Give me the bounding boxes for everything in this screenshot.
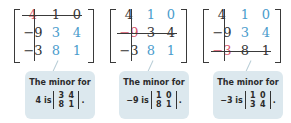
col-strike-line (131, 9, 132, 61)
panel-minor-4: 4 1 0 −9 3 4 −3 8 1 The minor for 4 is 3… (0, 0, 95, 123)
matrix-cell: 1 (141, 7, 161, 23)
callout-period: . (179, 96, 182, 105)
callout-pointer (148, 60, 154, 71)
row-strike-line (22, 15, 82, 16)
matrix-cell: 3 (46, 25, 66, 41)
det-entry: 1 (164, 100, 174, 109)
col-strike-line (224, 9, 225, 61)
matrix-cell: 4 (212, 7, 232, 23)
det-entry: 4 (66, 91, 76, 100)
right-bracket (88, 9, 94, 63)
callout-text: The minor for (213, 78, 283, 87)
callout-box: The minor for −3 is 1 0 3 4 . (213, 71, 283, 119)
det-entry: 0 (258, 91, 268, 100)
matrix-cell: 4 (67, 25, 87, 41)
col-strike-line (34, 9, 35, 61)
callout-box: The minor for −9 is 1 0 8 1 . (119, 71, 189, 119)
det-entry: 4 (258, 100, 268, 109)
minor-determinant: 1 0 3 4 (245, 91, 271, 109)
matrix-cell: 4 (119, 7, 139, 23)
matrix-cell: 1 (67, 43, 87, 59)
matrix-cell: 0 (161, 7, 181, 23)
matrix-cell: 3 (235, 25, 255, 41)
right-bracket (181, 9, 187, 63)
matrix-cell: −9 (212, 25, 232, 41)
minor-determinant: 1 0 8 1 (151, 91, 177, 109)
callout-period: . (273, 96, 276, 105)
det-entry: 1 (248, 91, 258, 100)
matrix-cell: 0 (256, 7, 276, 23)
matrix-cell: 1 (161, 43, 181, 59)
matrix-cell: 8 (141, 43, 161, 59)
left-bracket (203, 9, 209, 63)
callout-text: The minor for (119, 78, 189, 87)
matrix-cell: 4 (256, 25, 276, 41)
det-entry: 1 (66, 100, 76, 109)
det-entry: 8 (154, 100, 164, 109)
matrix-cell: −3 (23, 43, 43, 59)
matrix-cell: −9 (23, 25, 43, 41)
det-entry: 3 (248, 100, 258, 109)
callout-pointer (53, 60, 59, 71)
matrix-cell: −3 (119, 43, 139, 59)
callout-text: The minor for (25, 78, 95, 87)
callout-element: −9 is (126, 96, 149, 105)
callout-pointer (246, 60, 252, 71)
callout-element: 4 is (36, 96, 52, 105)
det-entry: 3 (56, 91, 66, 100)
matrix-cell: 1 (235, 7, 255, 23)
callout-box: The minor for 4 is 3 4 8 1 . (25, 71, 95, 119)
panel-minor-neg9: 4 1 0 −9 3 4 −3 8 1 The minor for −9 is … (97, 0, 192, 123)
panel-minor-neg3: 4 1 0 −9 3 4 −3 8 1 The minor for −3 is … (192, 0, 287, 123)
callout-period: . (81, 96, 84, 105)
left-bracket (14, 9, 20, 63)
left-bracket (110, 9, 116, 63)
minor-determinant: 3 4 8 1 (53, 91, 79, 109)
det-entry: 0 (164, 91, 174, 100)
matrix-cell: 8 (46, 43, 66, 59)
det-entry: 8 (56, 100, 66, 109)
det-entry: 1 (154, 91, 164, 100)
row-strike-line (211, 51, 271, 52)
callout-element: −3 is (220, 96, 243, 105)
row-strike-line (117, 33, 177, 34)
